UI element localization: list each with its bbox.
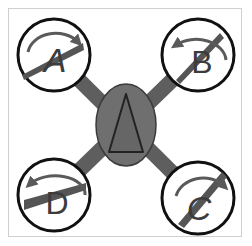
- rotor-label: A: [42, 41, 67, 79]
- rotor-c[interactable]: C: [162, 162, 234, 234]
- body: [96, 84, 156, 166]
- rotor-label: B: [191, 44, 212, 80]
- rotor-label: C: [187, 189, 212, 227]
- rotor-label: D: [45, 185, 68, 221]
- rotor-b[interactable]: B: [162, 19, 234, 91]
- rotor-d[interactable]: D: [18, 159, 90, 231]
- quadcopter-diagram: A B D C: [0, 0, 252, 246]
- rotor-a[interactable]: A: [18, 19, 90, 91]
